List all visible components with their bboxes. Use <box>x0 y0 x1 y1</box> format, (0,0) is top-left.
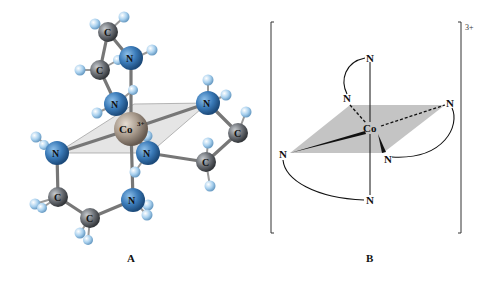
right-bracket <box>458 22 461 233</box>
svg-text:C: C <box>86 213 93 224</box>
svg-text:N: N <box>203 98 211 109</box>
svg-text:N: N <box>126 53 134 64</box>
svg-text:Co: Co <box>119 123 133 135</box>
svg-text:C: C <box>202 157 209 168</box>
n-atom-top: N <box>366 52 374 64</box>
svg-text:C: C <box>54 192 61 203</box>
svg-text:C: C <box>104 27 111 38</box>
svg-text:N: N <box>52 148 60 159</box>
n-atom-right: N <box>446 97 454 109</box>
complex-charge: 3+ <box>465 23 474 32</box>
panel-a-ball-and-stick-model: C C C C C C N N N N N Co 3+ <box>30 12 252 265</box>
panel-b-line-diagram: 3+ N N N N N N Co B <box>271 22 474 264</box>
svg-text:N: N <box>111 99 119 110</box>
co-atom: Co <box>363 122 377 134</box>
n-atom-left: N <box>279 148 287 160</box>
n-atom-upper-left: N <box>343 92 351 104</box>
panel-a-label: A <box>127 252 135 264</box>
front-nitrogen-atom: N <box>136 141 160 165</box>
figure-canvas: C C C C C C N N N N N Co 3+ <box>0 0 494 281</box>
cobalt-atom: Co 3+ <box>114 112 148 146</box>
svg-text:N: N <box>128 195 136 206</box>
svg-text:3+: 3+ <box>137 120 145 128</box>
n-atom-bottom: N <box>366 194 374 206</box>
left-bracket <box>271 22 274 233</box>
n-atom-front: N <box>384 153 392 165</box>
panel-b-label: B <box>366 252 374 264</box>
svg-text:C: C <box>234 128 241 139</box>
svg-text:C: C <box>96 65 103 76</box>
svg-text:N: N <box>143 148 151 159</box>
